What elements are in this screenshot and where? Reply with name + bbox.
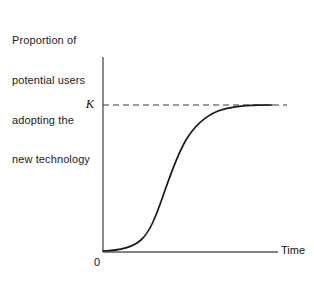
k-axis-tick-label: K	[76, 97, 94, 112]
origin-tick-label: 0	[90, 256, 104, 268]
adoption-s-curve-figure: Proportion of potential users adopting t…	[0, 0, 314, 283]
chart-canvas	[0, 0, 314, 283]
adoption-curve-path	[103, 105, 272, 251]
x-axis-label: Time	[281, 244, 305, 256]
